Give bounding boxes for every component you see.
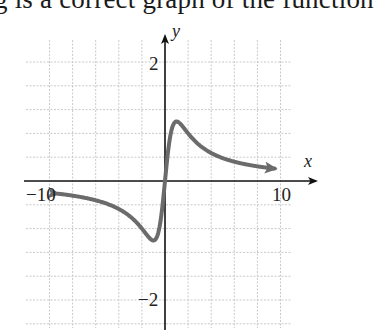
y-tick-min: −2 — [138, 289, 158, 310]
x-axis-label: x — [303, 151, 312, 171]
y-axis-label: y — [170, 21, 180, 41]
y-tick-max: 2 — [149, 53, 159, 74]
x-tick-min: −10 — [26, 184, 56, 205]
grid — [26, 40, 292, 328]
x-tick-max: 10 — [272, 184, 291, 205]
